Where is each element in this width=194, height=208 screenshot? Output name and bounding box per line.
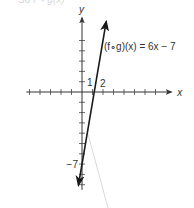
- tick-label-y-1: 1: [87, 77, 93, 88]
- tick-label-y-neg7: −7: [67, 159, 79, 170]
- function-label: (f∘g)(x) = 6x − 7: [104, 41, 176, 52]
- chart: x y 1 2 −7 (f∘g)(x) = 6x − 7: [0, 0, 194, 208]
- y-axis-label: y: [78, 4, 85, 15]
- tick-label-x-2: 2: [100, 78, 106, 89]
- x-axis-label: x: [176, 87, 183, 98]
- bleed-through-line: [88, 134, 108, 208]
- series-line: [79, 22, 107, 185]
